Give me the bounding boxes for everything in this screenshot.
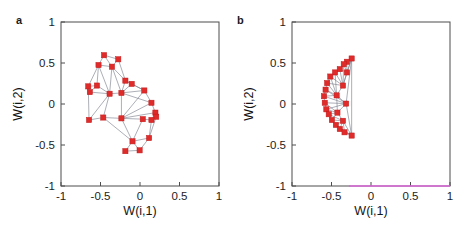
x-tick-label-a-1: -0.5 (91, 190, 111, 202)
y-tick-label-a-0: 1 (49, 16, 55, 28)
x-tick-label-a-3: 0.5 (172, 190, 188, 202)
y-tick-label-a-3: -0.5 (35, 139, 55, 151)
data-point-marker (154, 114, 159, 119)
x-axis-title-a: W(i,1) (123, 204, 156, 218)
data-point-marker (86, 84, 91, 89)
figure-root: -1-0.500.5110.50-0.5-1 W(i,1) W(i,2) a -… (0, 0, 462, 231)
x-tick-label-b-3: 0.5 (403, 190, 419, 202)
data-point-marker (340, 83, 345, 88)
data-point-marker (341, 62, 346, 67)
data-point-marker (94, 83, 99, 88)
data-point-marker (87, 90, 92, 95)
panel-label-a: a (16, 14, 22, 26)
data-point-marker (340, 118, 345, 123)
data-point-marker (342, 130, 347, 135)
y-tick-label-b-0: 1 (280, 16, 286, 28)
plot-frame-a (61, 22, 219, 186)
data-point-marker (334, 93, 339, 98)
data-point-marker (101, 53, 106, 58)
data-point-marker (349, 56, 354, 61)
data-point-marker (332, 70, 337, 75)
data-point-marker (96, 62, 101, 67)
y-axis-title-a: W(i,2) (11, 87, 25, 120)
y-tick-label-a-4: -1 (45, 180, 55, 192)
data-point-marker (123, 149, 128, 154)
x-tick-label-b-2: 0 (368, 190, 374, 202)
x-axis-title-b: W(i,1) (354, 204, 387, 218)
x-tick-label-b-1: -0.5 (322, 190, 342, 202)
y-tick-label-a-1: 0.5 (39, 57, 55, 69)
data-point-marker (140, 117, 145, 122)
data-point-marker (321, 94, 326, 99)
y-axis-title-b: W(i,2) (242, 87, 256, 120)
data-point-marker (326, 112, 331, 117)
data-point-marker (129, 81, 134, 86)
y-tick-label-b-4: -1 (276, 180, 286, 192)
data-point-marker (349, 133, 354, 138)
data-point-marker (107, 91, 112, 96)
data-point-marker (149, 100, 154, 105)
panel-a-plot: -1-0.500.5110.50-0.5-1 W(i,1) W(i,2) (0, 0, 231, 231)
data-point-marker (101, 115, 106, 120)
x-tick-label-b-0: -1 (287, 190, 297, 202)
panel-b: -1-0.500.5110.50-0.5-1 W(i,1) W(i,2) b (231, 0, 462, 231)
data-point-marker (337, 67, 342, 72)
data-point-marker (344, 70, 349, 75)
data-point-marker (109, 64, 114, 69)
data-point-marker (329, 117, 334, 122)
y-tick-label-a-2: 0 (49, 98, 55, 110)
data-point-marker (119, 116, 124, 121)
data-point-marker (123, 78, 128, 83)
data-point-marker (335, 110, 340, 115)
x-tick-label-a-4: 1 (216, 190, 222, 202)
data-point-marker (86, 117, 91, 122)
x-tick-label-b-4: 1 (447, 190, 453, 202)
panel-b-plot: -1-0.500.5110.50-0.5-1 W(i,1) W(i,2) (231, 0, 462, 231)
data-point-marker (149, 117, 154, 122)
data-point-marker (119, 90, 124, 95)
plot-frame-b (292, 22, 450, 186)
data-point-marker (344, 101, 349, 106)
data-point-marker (322, 100, 327, 105)
data-point-marker (130, 139, 135, 144)
y-tick-label-b-2: 0 (280, 98, 286, 110)
x-tick-label-a-0: -1 (56, 190, 66, 202)
x-tick-label-a-2: 0 (137, 190, 143, 202)
panel-a-axes-group: -1-0.500.5110.50-0.5-1 (35, 16, 222, 202)
y-tick-label-b-1: 0.5 (270, 57, 286, 69)
data-point-marker (324, 107, 329, 112)
data-point-marker (142, 88, 147, 93)
data-point-marker (146, 135, 151, 140)
panel-a: -1-0.500.5110.50-0.5-1 W(i,1) W(i,2) a (0, 0, 231, 231)
data-point-marker (116, 57, 121, 62)
data-point-marker (325, 80, 330, 85)
data-point-marker (328, 74, 333, 79)
data-point-marker (337, 126, 342, 131)
panel-b-axes-group: -1-0.500.5110.50-0.5-1 (266, 16, 453, 202)
y-tick-label-b-3: -0.5 (266, 139, 286, 151)
data-point-marker (323, 87, 328, 92)
panel-label-b: b (237, 14, 244, 26)
data-point-marker (137, 148, 142, 153)
